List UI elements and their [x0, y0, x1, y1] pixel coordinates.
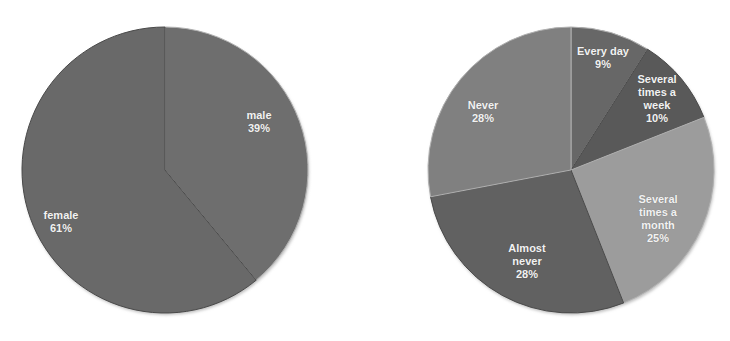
gender-pie-svg — [0, 0, 365, 341]
slice-label-several-times-a-week: Several times a week 10% — [637, 73, 676, 125]
frequency-pie-svg — [365, 0, 730, 341]
frequency-pie-chart: Every day 9%Several times a week 10%Seve… — [365, 0, 730, 341]
slice-label-never: Never 28% — [468, 99, 499, 125]
slice-label-every-day: Every day 9% — [577, 45, 629, 71]
slice-label-male: male 39% — [246, 109, 271, 135]
slice-label-several-times-a-month: Several times a month 25% — [638, 193, 677, 245]
pie-slice-never — [428, 27, 571, 197]
slice-label-almost-never: Almost never 28% — [508, 242, 545, 281]
slice-label-female: female 61% — [44, 209, 79, 235]
gender-pie-chart: male 39%female 61% — [0, 0, 365, 341]
